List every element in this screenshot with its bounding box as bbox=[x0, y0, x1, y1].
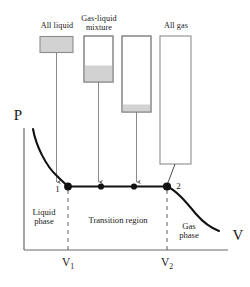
x-tick-v2-subscript: 2 bbox=[169, 262, 173, 271]
marker-point-2 bbox=[163, 182, 171, 190]
vessel-all-liquid bbox=[40, 37, 73, 53]
curve-liquid-branch bbox=[33, 129, 68, 186]
region-label-gas-phase: Gas phase bbox=[172, 222, 206, 240]
vessel-caption-all-gas: All gas bbox=[152, 22, 200, 31]
vessel-all-gas bbox=[160, 36, 191, 164]
y-axis-label: P bbox=[10, 108, 26, 124]
x-tick-v2-base: V bbox=[161, 256, 169, 268]
point-2-label: 2 bbox=[173, 182, 184, 191]
x-tick-v1-subscript: 1 bbox=[70, 262, 74, 271]
vessel-mostly-gas-liquid bbox=[123, 105, 151, 112]
diagram-canvas bbox=[0, 0, 250, 287]
x-tick-v1-base: V bbox=[62, 256, 70, 268]
vessel-caption-gas-liquid-mixture: Gas-liquid mixture bbox=[73, 15, 125, 32]
vessel-all-gas-body bbox=[160, 36, 191, 164]
pv-phase-diagram-figure: All liquid Gas-liquid mixture All gas P … bbox=[0, 0, 250, 287]
vessel-all-liquid-body bbox=[40, 37, 73, 53]
region-label-transition-region: Transition region bbox=[72, 216, 164, 225]
marker-point-mid-b bbox=[131, 183, 137, 189]
point-1-label: 1 bbox=[52, 185, 63, 194]
x-tick-label-v2: V2 bbox=[154, 256, 180, 271]
marker-point-mid-a bbox=[98, 183, 104, 189]
vessel-gas-liquid-mixture bbox=[84, 36, 113, 82]
marker-point-1 bbox=[64, 183, 72, 191]
vessel-mostly-gas-body bbox=[122, 36, 151, 112]
x-axis-label: V bbox=[230, 228, 246, 244]
region-label-liquid-phase: Liquid phase bbox=[22, 208, 66, 226]
x-tick-label-v1: V1 bbox=[55, 256, 81, 271]
vessel-mostly-gas bbox=[122, 36, 151, 112]
vessel-gas-liquid-mixture-liquid bbox=[85, 66, 113, 82]
